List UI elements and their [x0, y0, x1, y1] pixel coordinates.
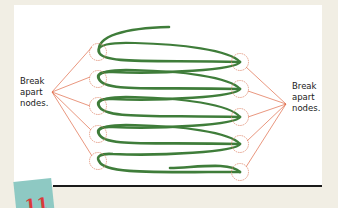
spring-diagram — [0, 0, 338, 208]
badge-number: 11 — [24, 196, 50, 208]
label-line: Break — [292, 81, 320, 92]
label-line: apart — [20, 87, 48, 98]
label-line: Break — [20, 76, 48, 87]
label-line: nodes. — [20, 98, 48, 109]
right-leader-lines — [246, 67, 286, 167]
label-line: nodes. — [292, 103, 320, 114]
section-number-badge: 11 — [13, 178, 54, 208]
left-leader-lines — [52, 47, 92, 156]
label-line: apart — [292, 92, 320, 103]
right-break-apart-label: Break apart nodes. — [292, 81, 320, 114]
horizontal-rule — [53, 185, 322, 187]
spring-coil — [98, 27, 240, 172]
left-break-apart-label: Break apart nodes. — [20, 76, 48, 109]
